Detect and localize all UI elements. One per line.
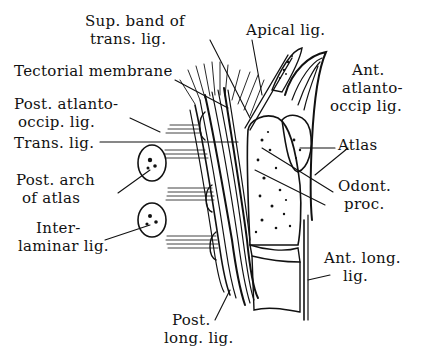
label-post-arch-line2: of atlas [22, 190, 80, 207]
label-post-long-line1: Post. [172, 312, 211, 329]
label-sup-band-line1: Sup. band of [85, 13, 185, 30]
label-ant-ao-line1: Ant. [352, 62, 385, 79]
post-arch-axis-shape [138, 203, 166, 237]
label-odont-line2: proc. [344, 196, 384, 213]
label-ant-long-line2: lig. [343, 268, 368, 285]
label-apical-lig: Apical lig. [246, 22, 325, 39]
label-post-arch-line1: Post. arch [16, 172, 95, 189]
label-post-ao-line1: Post. atlanto- [14, 96, 118, 113]
label-post-long-line2: long. lig. [164, 330, 234, 347]
label-sup-band-line2: trans. lig. [90, 31, 166, 48]
label-ant-ao-line2: atlanto- [342, 80, 403, 97]
anatomy-diagram: Sup. band of trans. lig. Apical lig. Tec… [0, 0, 427, 361]
label-interlaminar-line2: laminar lig. [18, 238, 109, 255]
label-ant-ao-line3: occip lig. [330, 98, 402, 115]
label-ant-long-line1: Ant. long. [324, 250, 401, 267]
label-atlas: Atlas [338, 137, 378, 154]
label-trans-lig: Trans. lig. [14, 135, 94, 152]
label-post-ao-line2: occip. lig. [18, 114, 95, 131]
label-tectorial-membrane: Tectorial membrane [14, 63, 173, 80]
label-interlaminar-line1: Inter- [36, 220, 81, 237]
odontoid-outline [247, 116, 301, 245]
label-odont-line1: Odont. [338, 178, 391, 195]
